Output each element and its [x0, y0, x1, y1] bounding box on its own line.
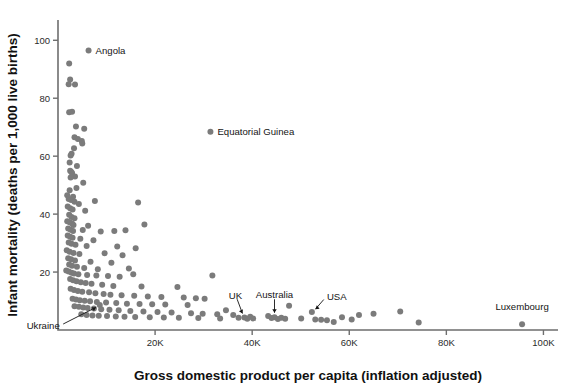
data-point [81, 265, 87, 271]
data-point [133, 245, 139, 251]
data-point [282, 316, 288, 322]
data-point [117, 274, 123, 280]
data-point [95, 266, 101, 272]
data-point [86, 47, 92, 53]
data-point [113, 300, 119, 306]
x-tick-label: 80K [438, 337, 456, 348]
chart-canvas: 20K40K60K80K100K 20406080100 AngolaEquat… [0, 0, 578, 390]
data-point [76, 251, 82, 257]
point-annotations: AngolaEquatorial GuineaUkraineUKAustrali… [27, 45, 549, 331]
data-point [98, 229, 104, 235]
data-point [68, 175, 74, 181]
data-point [349, 317, 355, 323]
data-point [73, 185, 79, 191]
x-axis-title: Gross domestic product per capita (infla… [134, 368, 482, 383]
data-point [161, 315, 167, 321]
data-point [397, 308, 403, 314]
data-point [188, 310, 194, 316]
data-point [145, 293, 151, 299]
data-point [135, 200, 141, 206]
data-point [169, 310, 175, 316]
data-point [312, 317, 318, 323]
data-point [86, 289, 92, 295]
data-point [73, 124, 79, 130]
data-point [174, 284, 180, 290]
data-point [70, 228, 76, 234]
annotation-label-uk: UK [229, 290, 243, 301]
data-point [149, 301, 155, 307]
data-point [107, 292, 113, 298]
data-point [72, 257, 78, 263]
data-point [176, 315, 182, 321]
data-points [63, 47, 525, 327]
data-point [195, 315, 201, 321]
data-point [207, 129, 213, 135]
data-point [193, 295, 199, 301]
data-point [223, 307, 229, 313]
data-point [69, 109, 75, 115]
data-point [132, 314, 138, 320]
data-point [106, 307, 112, 313]
data-point [96, 313, 102, 319]
annotation-label-australia: Australia [256, 289, 294, 300]
data-point [101, 291, 107, 297]
y-tick-label: 60 [39, 151, 50, 162]
annotation-arrow-head [272, 309, 276, 313]
y-axis-ticks: 20406080100 [34, 35, 58, 278]
data-point [87, 298, 93, 304]
data-point [209, 273, 215, 279]
data-point [250, 315, 256, 321]
data-point [67, 160, 73, 166]
data-point [147, 314, 153, 320]
data-point [105, 273, 111, 279]
annotation-arrow-head [315, 305, 319, 309]
data-point [120, 252, 126, 258]
data-point [139, 284, 145, 290]
data-point [89, 281, 95, 287]
data-point [236, 315, 242, 321]
data-point [114, 244, 120, 250]
data-point [356, 312, 362, 318]
data-point [131, 293, 137, 299]
data-point [74, 264, 80, 270]
data-point [371, 311, 377, 317]
data-point [339, 314, 345, 320]
data-point [102, 250, 108, 256]
data-point [72, 82, 78, 88]
data-point [202, 296, 208, 302]
data-point [90, 237, 96, 243]
data-point [77, 236, 83, 242]
data-point [93, 273, 99, 279]
y-tick-label: 20 [39, 267, 50, 278]
data-point [72, 242, 78, 248]
data-point [66, 81, 72, 87]
data-point [124, 301, 130, 307]
data-point [89, 313, 95, 319]
data-point [92, 290, 98, 296]
data-point [92, 198, 98, 204]
data-point [70, 206, 76, 212]
data-point [130, 271, 136, 277]
scatter-plot-figure: 20K40K60K80K100K 20406080100 AngolaEquat… [0, 0, 578, 390]
data-point [331, 319, 337, 325]
data-point [111, 228, 117, 234]
data-point [185, 302, 191, 308]
data-point [71, 250, 77, 256]
data-point [116, 307, 122, 313]
data-point [324, 317, 330, 323]
axis-frame [58, 20, 558, 330]
data-point [108, 260, 114, 266]
axes [58, 20, 558, 330]
data-point [79, 289, 85, 295]
data-point [113, 313, 119, 319]
data-point [81, 126, 87, 132]
data-point [80, 227, 86, 233]
annotation-label-luxembourg: Luxembourg [495, 301, 548, 312]
data-point [126, 266, 132, 272]
x-tick-label: 100K [532, 337, 555, 348]
data-point [84, 243, 90, 249]
data-point [217, 315, 223, 321]
data-point [318, 317, 324, 323]
data-point [79, 140, 85, 146]
y-tick-label: 40 [39, 209, 50, 220]
